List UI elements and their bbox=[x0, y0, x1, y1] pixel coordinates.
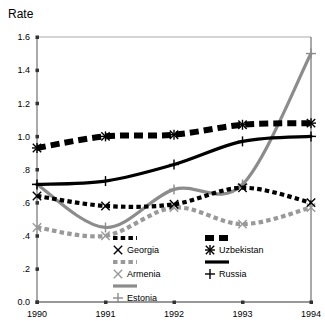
x-tick-label: 1993 bbox=[232, 309, 252, 319]
y-tick-label: 1.4 bbox=[17, 65, 30, 75]
y-tick-label: .6 bbox=[22, 198, 30, 208]
legend-marker-uzbekistan bbox=[205, 245, 215, 255]
legend-label-georgia: Georgia bbox=[127, 245, 159, 255]
y-tick-label: .8 bbox=[22, 165, 30, 175]
legend-label-armenia: Armenia bbox=[127, 269, 161, 279]
y-tick-label: .2 bbox=[22, 264, 30, 274]
data-point-marker bbox=[238, 120, 248, 130]
data-point-marker bbox=[205, 245, 215, 255]
data-point-marker bbox=[101, 131, 111, 141]
y-tick-label: 1.6 bbox=[17, 32, 30, 42]
y-tick-label: 0.0 bbox=[17, 297, 30, 307]
x-tick-label: 1990 bbox=[27, 309, 47, 319]
data-point-marker bbox=[32, 143, 42, 153]
x-tick-label: 1994 bbox=[301, 309, 321, 319]
data-point-marker bbox=[306, 118, 316, 128]
data-point-marker bbox=[169, 130, 179, 140]
legend-label-russia: Russia bbox=[219, 269, 247, 279]
x-tick-label: 1991 bbox=[95, 309, 115, 319]
chart-title: Rate bbox=[8, 7, 34, 21]
x-tick-label: 1992 bbox=[164, 309, 184, 319]
legend-label-estonia: Estonia bbox=[127, 293, 157, 303]
legend-label-uzbekistan: Uzbekistan bbox=[219, 245, 264, 255]
chart-canvas: Rate 0.0.2.4.6.81.01.21.41.6 19901991199… bbox=[0, 0, 325, 330]
y-tick-label: 1.2 bbox=[17, 99, 30, 109]
chart-background bbox=[0, 0, 325, 330]
y-tick-label: .4 bbox=[22, 231, 30, 241]
rate-line-chart: Rate 0.0.2.4.6.81.01.21.41.6 19901991199… bbox=[0, 0, 325, 330]
y-tick-label: 1.0 bbox=[17, 132, 30, 142]
